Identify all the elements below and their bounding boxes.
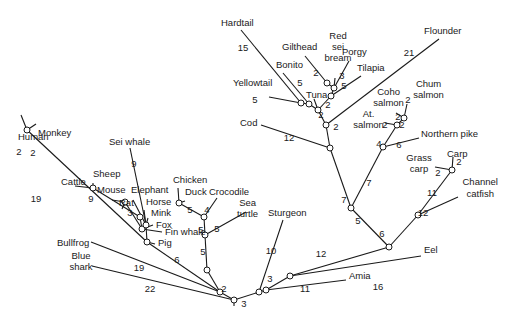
taxon-label-sheep: Sheep [93, 168, 120, 179]
tree-node [176, 200, 182, 206]
taxon-label-hardtail: Hardtail [221, 17, 254, 28]
branch-ostariophysi [389, 215, 418, 247]
branch-length-cyprinids: 11 [427, 187, 437, 198]
taxon-label-eel: Eel [424, 244, 438, 255]
branch-length-chum-salmon: 2 [405, 94, 410, 105]
tree-node [386, 244, 392, 250]
taxon-label-chicken: Chicken [173, 174, 207, 185]
branch-length-blue-shark: 22 [145, 283, 156, 294]
phylogenetic-tree: HumanMonkeyCattleSheepMouseRatSei whaleE… [0, 0, 514, 319]
taxon-label-tilapia: Tilapia [357, 62, 385, 73]
branch-length-chicken: 5 [187, 204, 192, 215]
taxon-label-mouse: Mouse [97, 184, 126, 195]
tree-node [144, 239, 150, 245]
tree-node [90, 185, 96, 191]
branch-length-sturgeon: 10 [266, 245, 277, 256]
branch-length-sheep: 9 [88, 193, 93, 204]
tree-node [204, 267, 210, 273]
branch-length-teleost-stem: 3 [267, 273, 272, 284]
taxon-label-cattle: Cattle [61, 176, 86, 187]
branch-length-grass-carp: 2 [435, 167, 440, 178]
taxon-label-pig: Pig [158, 237, 172, 248]
branch-length-eel: 16 [373, 281, 384, 292]
branch-length-cod: 12 [284, 132, 295, 143]
branch-length-yellowtail: 5 [252, 94, 257, 105]
taxon-label-crocodile: Crocodile [209, 186, 249, 197]
branch-length-sei-whale: 9 [131, 158, 136, 169]
branch-length-sparid-clade: 2 [325, 99, 330, 110]
taxon-label-porgy: Porgy [342, 46, 367, 57]
taxon-label-northern-pike: Northern pike [421, 128, 478, 139]
branch-length-hardtail: 15 [238, 42, 249, 53]
branch-length-salmoniformes: 7 [366, 177, 371, 188]
tree-node [306, 101, 312, 107]
tree-node [298, 100, 304, 106]
taxon-label-amia: Amia [349, 270, 371, 281]
branch-length-neoteleosts: 5 [355, 215, 360, 226]
tree-node [324, 80, 330, 86]
taxon-label-mink: Mink [151, 207, 171, 218]
branch-length-mammals: 6 [174, 254, 179, 265]
branch-length-rat: 3 [127, 207, 132, 218]
tree-node [287, 273, 293, 279]
branch-amn-tet [207, 270, 220, 292]
tree-node [256, 289, 262, 295]
branch-length-duck-crocodile: 4 [204, 204, 209, 215]
branch-length-salmonids: 4 [376, 138, 381, 149]
taxon-label-yellowtail: Yellowtail [233, 77, 272, 88]
taxon-label-flounder: Flounder [424, 25, 462, 36]
tree-node [327, 145, 333, 151]
branch-length-acanthopterygii: 7 [341, 194, 346, 205]
branch-mammals [147, 242, 220, 292]
branch-length-flounder: 21 [404, 47, 415, 58]
taxon-label-at-salmon: At.salmon [353, 108, 384, 130]
taxon-label-elephant: Elephant [131, 184, 169, 195]
taxon-label-chum-salmon: Chumsalmon [413, 78, 444, 100]
taxon-label-grass-carp: Grasscarp [406, 152, 432, 174]
branch-length-euteleosts: 12 [316, 248, 327, 259]
branch-length-perciform-core: 2 [318, 109, 323, 120]
tree-node [263, 287, 269, 293]
branch-length-human: 2 [16, 146, 21, 157]
taxon-label-channel-catfish: Channelcatfish [463, 176, 498, 199]
taxon-label-horse: Horse [146, 196, 171, 207]
taxon-label-monkey: Monkey [38, 127, 72, 138]
tree-node [231, 297, 237, 303]
tree-node [143, 222, 149, 228]
taxon-label-sei-whale: Sei whale [109, 136, 150, 147]
branch-length-bony-fish: 3 [241, 298, 246, 309]
branch-blue_shark [92, 266, 234, 300]
branch-length-amia: 11 [300, 283, 310, 294]
tree-node [331, 85, 337, 91]
branch-length-tilapia: 5 [341, 80, 346, 91]
branch-length-primates: 19 [31, 193, 42, 204]
branch-length-reptiles: 5 [200, 246, 205, 257]
tree-node [323, 122, 329, 128]
taxon-label-bonito: Bonito [276, 59, 303, 70]
taxon-label-sea-turtle: Seaturtle [237, 197, 258, 219]
branch-length-bullfrog: 19 [134, 262, 145, 273]
taxon-label-blue-shark: Blueshark [69, 250, 92, 272]
branch-length-gilthead: 2 [313, 67, 318, 78]
branch-length-sea-turtle: 5 [214, 223, 219, 234]
branch-length-northern-pike: 6 [396, 139, 401, 150]
taxon-label-gilthead: Gilthead [282, 41, 317, 52]
branch-length-birds: 5 [198, 224, 203, 235]
branch-euteleosts [290, 247, 389, 276]
branch-length-coho-salmon: 2 [395, 111, 400, 122]
tree-node [137, 214, 143, 220]
branch-percomorphs [326, 125, 330, 148]
taxon-label-bullfrog: Bullfrog [57, 237, 89, 248]
taxon-label-coho-salmon: Cohosalmon [373, 86, 404, 108]
branch-length-channel-catfish: 12 [418, 207, 429, 218]
branch-length-at-salmon: 2 [382, 119, 387, 130]
taxon-label-duck: Duck [185, 186, 207, 197]
branch-length-tetrapods: 2 [221, 283, 226, 294]
taxon-labels: HumanMonkeyCattleSheepMouseRatSei whaleE… [18, 17, 498, 281]
taxon-label-sturgeon: Sturgeon [268, 207, 307, 218]
branch-cod [261, 125, 330, 148]
tree-node [449, 167, 455, 173]
branch-length-monkey: 2 [30, 147, 35, 158]
branch-length-carp: 2 [456, 156, 461, 167]
taxon-label-cod: Cod [240, 117, 257, 128]
